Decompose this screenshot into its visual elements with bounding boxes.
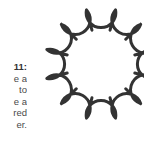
flower-outline-figure	[0, 0, 144, 141]
flower-outline	[47, 10, 144, 118]
